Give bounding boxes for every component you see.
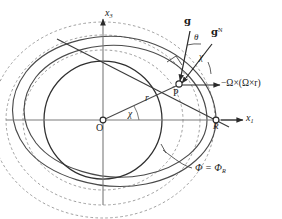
axis-label-x1: x1	[246, 113, 254, 124]
solid-equipotential-curves	[13, 36, 217, 186]
phi-r-curve	[13, 36, 217, 186]
chi-origin-arc	[134, 106, 139, 120]
chi-point-arc	[208, 62, 211, 74]
gravity-vector	[180, 31, 190, 81]
axis-label-x3-subscript: 3	[109, 12, 112, 19]
figure-root: x3 x1 O P R g gN −Ω×(Ω×r) θ χ χ r Φ = ΦR	[0, 0, 282, 219]
potential-leader-tick	[161, 144, 166, 153]
axis-label-x3: x3	[105, 8, 113, 19]
tangent-line-at-p	[57, 39, 229, 127]
point-label-p: P	[173, 88, 179, 98]
axis-label-x1-subscript: 1	[250, 117, 253, 124]
point-label-r: R	[213, 122, 219, 131]
potential-label: Φ = ΦR	[195, 163, 226, 174]
theta-arc	[187, 44, 201, 45]
potential-label-base: Φ = Φ	[195, 162, 222, 173]
phi-r-curve-secondary	[24, 45, 207, 177]
angle-label-theta: θ	[194, 33, 198, 42]
normal-gravity-superscript: N	[218, 26, 222, 33]
potential-label-subscript: R	[222, 167, 226, 174]
angle-label-chi-at-point: χ	[199, 53, 203, 63]
angle-label-chi-at-origin: χ	[128, 110, 132, 120]
point-label-origin: O	[96, 123, 103, 133]
vector-label-gravity: g	[184, 16, 191, 26]
diagram-canvas	[0, 0, 282, 219]
normal-gravity-base: g	[211, 26, 218, 37]
radius-label: r	[145, 94, 149, 104]
potential-leader-line	[163, 150, 192, 168]
radius-vector	[103, 86, 176, 120]
vector-label-centrifugal: −Ω×(Ω×r)	[221, 79, 261, 89]
vector-label-normal-gravity: gN	[211, 27, 222, 37]
